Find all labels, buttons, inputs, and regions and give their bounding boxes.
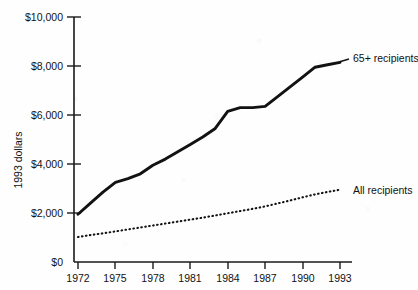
- x-tick-label: 1990: [291, 272, 315, 284]
- line-chart-canvas: $10,000 $8,000 $6,000 $4,000 $2,000 $0 1…: [0, 0, 418, 290]
- chart-figure: $10,000 $8,000 $6,000 $4,000 $2,000 $0 1…: [0, 0, 418, 290]
- y-tick-label: $6,000: [31, 109, 63, 121]
- x-axis-ticks: [78, 262, 340, 269]
- y-tick-label: $0: [51, 256, 63, 268]
- y-axis-title: 1993 dollars: [12, 131, 24, 188]
- y-tick-label: $8,000: [31, 60, 63, 72]
- x-tick-label: 1978: [141, 272, 165, 284]
- x-tick-label: 1993: [328, 272, 352, 284]
- y-tick-label: $2,000: [31, 207, 63, 219]
- x-tick-label: 1981: [178, 272, 202, 284]
- x-tick-label: 1984: [216, 272, 240, 284]
- x-tick-label: 1987: [253, 272, 277, 284]
- y-tick-label: $10,000: [25, 11, 63, 23]
- series-label-65plus: 65+ recipients: [353, 52, 418, 64]
- leader-line-65plus: [339, 59, 349, 62]
- series-line-65plus-recipients: [78, 62, 340, 214]
- x-tick-label: 1972: [66, 272, 90, 284]
- x-axis-tick-labels: 1972 1975 1978 1981 1984 1987 1990 1993: [66, 272, 352, 284]
- series-line-all-recipients: [78, 190, 340, 237]
- y-axis-tick-labels: $10,000 $8,000 $6,000 $4,000 $2,000 $0: [25, 11, 63, 268]
- x-tick-label: 1975: [103, 272, 127, 284]
- series-label-all-recipients: All recipients: [353, 184, 413, 196]
- y-tick-label: $4,000: [31, 158, 63, 170]
